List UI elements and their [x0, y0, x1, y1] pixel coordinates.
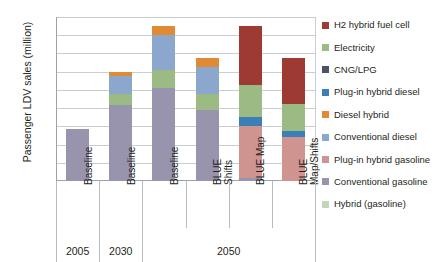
gridline — [57, 108, 315, 109]
plot-area — [56, 17, 315, 181]
stacked-bar-chart: Passenger LDV sales (million) 0204060801… — [0, 0, 440, 262]
bar-segment[interactable] — [109, 94, 132, 105]
legend-label: Electricity — [334, 43, 375, 53]
x-axis-category-label: BLUE Map — [255, 137, 266, 185]
legend-label: Plug-in hybrid diesel — [334, 87, 420, 97]
legend-label: Plug-in hybrid gasoline — [334, 155, 430, 165]
x-axis-category-label: Baseline — [126, 147, 137, 185]
legend-swatch — [322, 111, 329, 118]
legend-label: Diesel hybrid — [334, 110, 389, 120]
x-axis-category-label: Baseline — [83, 147, 94, 185]
legend-swatch — [322, 178, 329, 185]
bar-segment[interactable] — [239, 85, 262, 117]
legend-label: Hybrid (gasoline) — [334, 199, 406, 209]
category-separator — [142, 181, 143, 262]
gridline — [57, 35, 315, 36]
legend-label: CNG/LPG — [334, 65, 377, 75]
legend-swatch — [322, 156, 329, 163]
category-separator — [272, 181, 273, 228]
legend-label: Conventional diesel — [334, 132, 417, 142]
bar-segment[interactable] — [196, 94, 219, 109]
gridline — [57, 17, 315, 18]
bar-segment[interactable] — [152, 70, 175, 88]
legend-item[interactable]: CNG/LPG — [322, 59, 440, 81]
x-axis-group-label: 2030 — [99, 245, 142, 257]
gridline — [57, 72, 315, 73]
legend-item[interactable]: Conventional gasoline — [322, 171, 440, 193]
y-axis-title: Passenger LDV sales (million) — [21, 4, 33, 180]
legend-swatch — [322, 66, 329, 73]
category-separator — [186, 181, 187, 228]
bar-segment[interactable] — [239, 26, 262, 85]
x-axis-group-label: 2050 — [142, 245, 315, 257]
legend-label: Conventional gasoline — [334, 177, 427, 187]
legend-item[interactable]: Hybrid (gasoline) — [322, 193, 440, 215]
legend-item[interactable]: Plug-in hybrid diesel — [322, 81, 440, 103]
bar-segment[interactable] — [282, 104, 305, 131]
legend-item[interactable]: Conventional diesel — [322, 126, 440, 148]
gridline — [57, 90, 315, 91]
category-separator — [315, 181, 316, 262]
bar-segment[interactable] — [196, 58, 219, 67]
bar-segment[interactable] — [239, 117, 262, 126]
x-axis-category-label: BLUE Map/Shifts — [298, 138, 320, 185]
legend-item[interactable]: Plug-in hybrid gasoline — [322, 148, 440, 170]
category-separator — [229, 181, 230, 228]
bar-stack[interactable] — [196, 17, 219, 181]
bar-segment[interactable] — [282, 58, 305, 104]
x-axis-category-label: Baseline — [169, 147, 180, 185]
bar-segment[interactable] — [109, 76, 132, 94]
legend-swatch — [322, 22, 329, 29]
legend-item[interactable]: Diesel hybrid — [322, 104, 440, 126]
legend-swatch — [322, 44, 329, 51]
legend-swatch — [322, 201, 329, 208]
gridline — [57, 145, 315, 146]
x-axis-category-label: BLUE Shifts — [212, 159, 234, 185]
legend-swatch — [322, 89, 329, 96]
x-axis-group-label: 2005 — [56, 245, 99, 257]
gridline — [57, 53, 315, 54]
gridline — [57, 163, 315, 164]
legend-item[interactable]: Electricity — [322, 36, 440, 58]
legend-label: H2 hybrid fuel cell — [334, 20, 410, 30]
legend-swatch — [322, 134, 329, 141]
gridline — [57, 126, 315, 127]
bar-segment[interactable] — [152, 35, 175, 70]
legend-item[interactable]: H2 hybrid fuel cell — [322, 14, 440, 36]
bar-segment[interactable] — [196, 67, 219, 94]
bar-segment[interactable] — [152, 26, 175, 35]
chart-legend: H2 hybrid fuel cellElectricityCNG/LPGPlu… — [322, 14, 440, 216]
